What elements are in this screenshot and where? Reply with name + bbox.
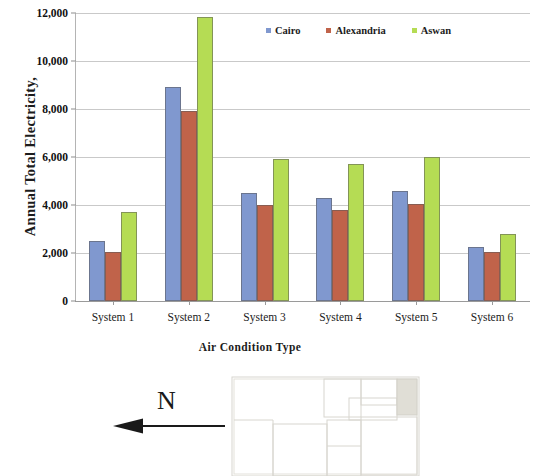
north-label: N: [157, 386, 176, 416]
x-tick-mark: [189, 301, 190, 305]
y-tick-label: 6,000: [42, 151, 68, 163]
north-arrow-icon: [113, 418, 225, 434]
bar[interactable]: [468, 247, 484, 301]
y-tick-label: 12,000: [36, 7, 68, 19]
y-tick-label: 10,000: [36, 55, 68, 67]
bar-group: System 5: [378, 13, 454, 301]
x-tick-mark: [265, 301, 266, 305]
plot-area: 02,0004,0006,0008,00010,00012,000 System…: [75, 13, 530, 301]
bar[interactable]: [484, 252, 500, 301]
legend-swatch-icon: [266, 28, 271, 33]
legend-item[interactable]: Aswan: [412, 25, 451, 36]
legend-swatch-icon: [326, 28, 331, 33]
bar[interactable]: [105, 252, 121, 301]
bar-group: System 3: [227, 13, 303, 301]
bar[interactable]: [408, 204, 424, 301]
bar-group: System 2: [151, 13, 227, 301]
x-tick-label: System 1: [92, 311, 135, 323]
bar[interactable]: [121, 212, 137, 301]
bar-group: System 6: [454, 13, 530, 301]
x-tick-label: System 5: [395, 311, 438, 323]
chart-legend: CairoAlexandriaAswan: [266, 25, 451, 36]
bar[interactable]: [257, 205, 273, 301]
bar[interactable]: [273, 159, 289, 301]
x-tick-mark: [113, 301, 114, 305]
bar[interactable]: [165, 87, 181, 301]
bar[interactable]: [332, 210, 348, 301]
legend-item[interactable]: Alexandria: [326, 25, 385, 36]
floor-plan-block: N: [0, 368, 534, 476]
bar[interactable]: [424, 157, 440, 301]
floor-plan-icon: [231, 376, 420, 476]
x-tick-label: System 3: [243, 311, 286, 323]
bar[interactable]: [500, 234, 516, 301]
plot-inner: 02,0004,0006,0008,00010,00012,000 System…: [75, 13, 530, 301]
bar[interactable]: [392, 191, 408, 301]
x-tick-label: System 6: [471, 311, 514, 323]
y-tick-label: 0: [62, 295, 68, 307]
bar-chart: Annual Total Electricity, 02,0004,0006,0…: [0, 0, 534, 368]
x-tick-mark: [416, 301, 417, 305]
legend-label: Cairo: [275, 25, 300, 36]
x-tick-label: System 2: [167, 311, 210, 323]
y-axis-title: Annual Total Electricity,: [22, 42, 39, 272]
x-tick-mark: [492, 301, 493, 305]
gridline: [75, 301, 530, 302]
legend-label: Alexandria: [335, 25, 385, 36]
y-tick-label: 4,000: [42, 199, 68, 211]
bar[interactable]: [241, 193, 257, 301]
y-tick-label: 8,000: [42, 103, 68, 115]
bar-group: System 4: [302, 13, 378, 301]
bar-groups: System 1System 2System 3System 4System 5…: [75, 13, 530, 301]
legend-swatch-icon: [412, 28, 417, 33]
y-tick-label: 2,000: [42, 247, 68, 259]
legend-item[interactable]: Cairo: [266, 25, 300, 36]
bar[interactable]: [197, 17, 213, 301]
x-axis-title: Air Condition Type: [0, 341, 500, 353]
bar[interactable]: [348, 164, 364, 301]
bar[interactable]: [89, 241, 105, 301]
bar[interactable]: [181, 111, 197, 301]
x-tick-mark: [340, 301, 341, 305]
figure: Annual Total Electricity, 02,0004,0006,0…: [0, 0, 534, 476]
x-tick-label: System 4: [319, 311, 362, 323]
bar[interactable]: [316, 198, 332, 301]
bar-group: System 1: [75, 13, 151, 301]
legend-label: Aswan: [421, 25, 451, 36]
